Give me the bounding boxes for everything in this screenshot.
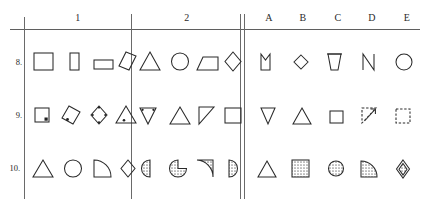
row-9-answer-b[interactable]: [289, 99, 317, 129]
row-10-problem-1-item-1[interactable]: [30, 152, 58, 182]
row-9-answer-a[interactable]: [256, 99, 284, 129]
row-8-answer-c[interactable]: [322, 46, 350, 76]
row-10-answer-e[interactable]: [392, 152, 420, 182]
header-problem-column-2: 2: [184, 12, 190, 23]
row-10-problem-1-item-3[interactable]: [89, 152, 117, 182]
row-10-answer-d[interactable]: [356, 152, 384, 182]
row-9-problem-2-item-4[interactable]: [220, 99, 248, 129]
row-9-answer-d[interactable]: [357, 99, 385, 129]
row-9-problem-1-item-1[interactable]: [30, 99, 58, 129]
row-8-problem-2-item-2[interactable]: [166, 46, 194, 76]
header-answer-column-b: B: [299, 12, 306, 23]
row-8-problem-1-item-1[interactable]: [30, 46, 58, 76]
row-10-problem-2-item-4[interactable]: [219, 152, 247, 182]
row-number-divider: [24, 17, 25, 199]
row-10-problem-2-item-2[interactable]: [165, 152, 193, 182]
row-8-answer-d[interactable]: [356, 46, 384, 76]
row-9-answer-e[interactable]: [391, 99, 419, 129]
header-answer-column-e: E: [404, 12, 411, 23]
header-underline: [10, 29, 420, 30]
row-9-problem-2-item-3[interactable]: [194, 99, 222, 129]
row-8-answer-a[interactable]: [254, 46, 282, 76]
header-answer-column-d: D: [368, 12, 376, 23]
row-10-answer-a[interactable]: [254, 152, 282, 182]
row-8-answer-e[interactable]: [391, 46, 419, 76]
row-9-problem-2-item-2[interactable]: [166, 99, 194, 129]
row-10-problem-2-item-3[interactable]: [192, 152, 220, 182]
row-number-10: 10.: [0, 163, 20, 173]
row-10-answer-c[interactable]: [323, 152, 351, 182]
row-number-9: 9.: [2, 110, 22, 120]
test-sheet: 1 2 A B C D E 8. 9. 10.: [0, 0, 430, 201]
row-10-problem-2-item-1[interactable]: [137, 152, 165, 182]
header-problem-column-1: 1: [75, 12, 81, 23]
row-8-problem-2-item-4[interactable]: [220, 46, 248, 76]
header-answer-column-c: C: [334, 12, 341, 23]
row-10-answer-b[interactable]: [288, 152, 316, 182]
row-8-problem-2-item-3[interactable]: [194, 46, 222, 76]
row-8-answer-b[interactable]: [288, 46, 316, 76]
row-9-problem-2-item-1[interactable]: [136, 99, 164, 129]
row-10-problem-1-item-2[interactable]: [60, 152, 88, 182]
header-answer-column-a: A: [265, 12, 273, 23]
row-9-answer-c[interactable]: [324, 99, 352, 129]
row-8-problem-2-item-1[interactable]: [136, 46, 164, 76]
row-9-problem-1-item-2[interactable]: [58, 99, 86, 129]
row-9-problem-1-item-3[interactable]: [86, 99, 114, 129]
row-8-problem-1-item-2[interactable]: [61, 46, 89, 76]
row-number-8: 8.: [2, 57, 22, 67]
